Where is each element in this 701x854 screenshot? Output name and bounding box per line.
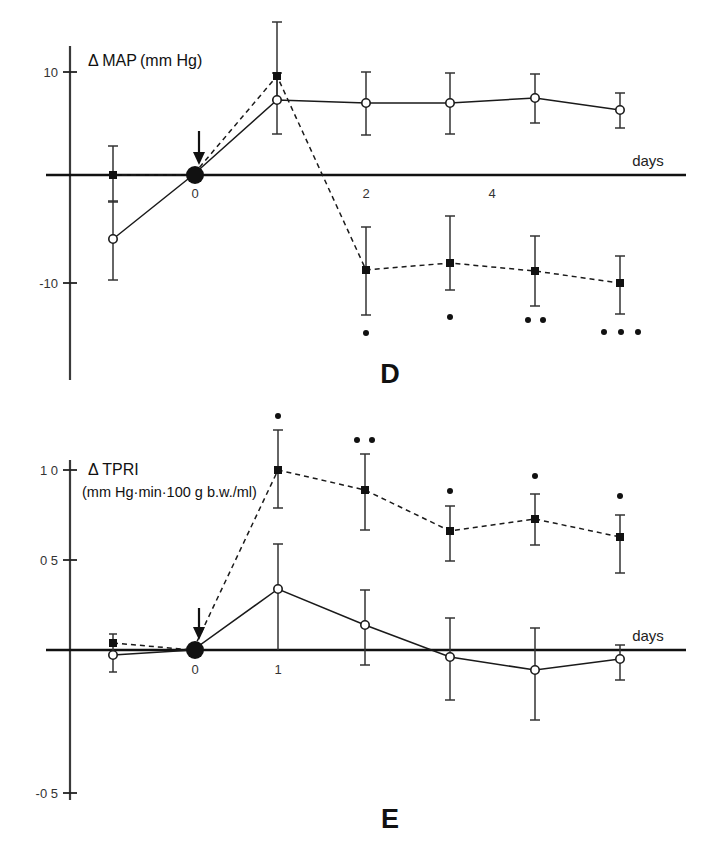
panel-caption-d: D <box>380 359 400 389</box>
errorbars-filled-square-e <box>109 430 625 650</box>
y-ticklabel-05-e: 0 5 <box>40 553 58 568</box>
chart-panel-d: 10 -10 0 2 4 Δ MAP (mm Hg) days <box>0 0 701 420</box>
errorbars-open-circle-e <box>109 544 625 720</box>
panel-caption-e: E <box>381 804 399 834</box>
markers-open-circle-e <box>109 585 624 674</box>
chart-panel-e: 1 0 0 5 -0 5 0 1 Δ TPRI (mm Hg·min·100 g… <box>0 400 701 854</box>
treatment-arrow-d <box>193 131 205 165</box>
y-axis-title-e: Δ TPRI <box>88 461 139 478</box>
y-ticklabel-10-d: 10 <box>44 65 58 80</box>
origin-marker-d <box>186 166 204 184</box>
x-ticklabel-0-e: 0 <box>191 662 198 677</box>
x-axis-label-e: days <box>632 627 664 644</box>
significance-dots-d <box>363 314 641 336</box>
significance-dots-e <box>275 413 623 499</box>
y-ticklabel-minus10-d: -10 <box>39 276 58 291</box>
figure-root: 10 -10 0 2 4 Δ MAP (mm Hg) days <box>0 0 701 854</box>
origin-marker-e <box>186 641 204 659</box>
x-ticklabel-1-e: 1 <box>274 662 281 677</box>
x-ticklabel-4-d: 4 <box>488 186 495 201</box>
y-ticklabel-1-e: 1 0 <box>40 463 58 478</box>
y-axis-units-e: (mm Hg·min·100 g b.w./ml) <box>82 484 257 500</box>
treatment-arrow-e <box>193 608 205 640</box>
x-ticklabel-0-d: 0 <box>191 186 198 201</box>
x-axis-label-d: days <box>632 152 664 169</box>
y-axis-units-d: (mm Hg) <box>140 52 202 69</box>
y-ticklabel-minus05-e: -0 5 <box>36 786 58 801</box>
x-ticklabel-2-d: 2 <box>362 186 369 201</box>
y-axis-title-d: Δ MAP <box>88 52 137 69</box>
